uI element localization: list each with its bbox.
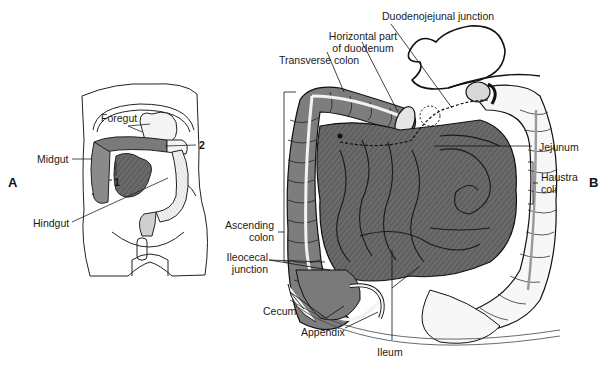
label-foregut: Foregut [101, 112, 137, 124]
label-ileum: Ileum [377, 346, 403, 358]
label-jejunum: Jejunum [539, 141, 579, 153]
label-duodenojejunal-junction: Duodenojejunal junction [382, 10, 494, 22]
label-horizontal-part-duodenum: Horizontal part of duodenum [313, 30, 413, 54]
label-cecum: Cecum [263, 305, 296, 317]
label-horizontal-part-line1: Horizontal part [313, 30, 413, 42]
label-hindgut: Hindgut [33, 217, 69, 229]
label-ileocecal-line1: Ileocecal [210, 251, 268, 263]
anatomy-figure: A Foregut Midgut Hindgut 1 2 B Duodenoje… [0, 0, 611, 372]
label-ileocecal-junction: Ileocecal junction [210, 251, 268, 275]
label-transverse-colon: Transverse colon [279, 54, 359, 66]
label-ascending-line2: colon [212, 231, 274, 243]
panel-label-b: B [589, 175, 598, 190]
splenic-flexure-cut-end [466, 82, 490, 102]
marker-1: 1 [114, 176, 120, 188]
label-haustra-coli: Haustra coli [541, 171, 578, 195]
label-haustra-line1: Haustra [541, 171, 578, 183]
label-haustra-line2: coli [541, 183, 578, 195]
label-appendix: Appendix [301, 326, 345, 338]
label-ileocecal-line2: junction [210, 263, 268, 275]
label-horizontal-part-line2: of duodenum [313, 42, 413, 54]
label-ascending-line1: Ascending [212, 219, 274, 231]
panel-label-a: A [8, 175, 17, 190]
label-midgut: Midgut [37, 153, 69, 165]
marker-2: 2 [199, 139, 205, 151]
stomach-outline [408, 26, 505, 89]
label-ascending-colon: Ascending colon [212, 219, 274, 243]
